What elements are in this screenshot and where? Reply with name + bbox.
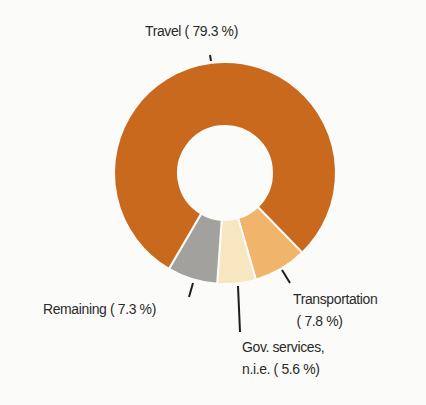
label-gov-services: Gov. services, n.i.e. ( 5.6 %) [242, 336, 324, 380]
label-gov-services-line1: Gov. services, [242, 336, 324, 358]
leader-line-remaining [189, 283, 193, 297]
label-travel: Travel ( 79.3 %) [145, 20, 238, 42]
label-transportation-line2: ( 7.8 %) [293, 310, 377, 332]
label-travel-text: Travel ( 79.3 %) [145, 20, 238, 42]
leader-line-travel [210, 55, 211, 61]
label-transportation-line1: Transportation [293, 288, 377, 310]
label-gov-services-line2: n.i.e. ( 5.6 %) [242, 358, 324, 380]
label-remaining: Remaining ( 7.3 %) [43, 298, 156, 320]
label-remaining-text: Remaining ( 7.3 %) [43, 298, 156, 320]
donut-chart [0, 0, 426, 405]
label-transportation: Transportation ( 7.8 %) [293, 288, 377, 332]
donut-slices [114, 62, 336, 284]
leader-line-transportation [282, 270, 290, 283]
leader-line-gov [238, 286, 240, 332]
